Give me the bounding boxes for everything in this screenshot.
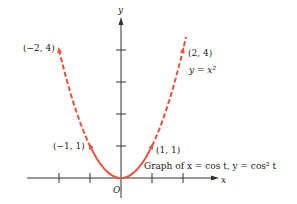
x-axis-label: x [221, 175, 226, 185]
parametric-curve-chart: y x O (−2, 4) (2, 4) (−1, 1) (1, 1) y = … [0, 0, 297, 204]
curve-segment-0 [59, 50, 90, 146]
point-label-neg2-4: (−2, 4) [23, 43, 55, 53]
point-marker-0 [57, 47, 62, 53]
curve-segment-2 [152, 37, 186, 146]
point-label-2-4: (2, 4) [188, 48, 212, 58]
y-axis-arrow [119, 17, 124, 25]
labels: y x O (−2, 4) (2, 4) (−1, 1) (1, 1) y = … [23, 5, 276, 195]
curve-equation-label: y = x² [188, 65, 216, 75]
curves [59, 37, 186, 178]
origin-label: O [113, 185, 121, 195]
point-label-1-1: (1, 1) [156, 145, 180, 155]
point-marker-1 [180, 47, 185, 53]
chart-title: Graph of x = cos t, y = cos² t [144, 161, 276, 171]
point-label-neg1-1: (−1, 1) [53, 141, 85, 151]
y-axis-label: y [117, 5, 124, 15]
x-axis-arrow [211, 176, 219, 181]
